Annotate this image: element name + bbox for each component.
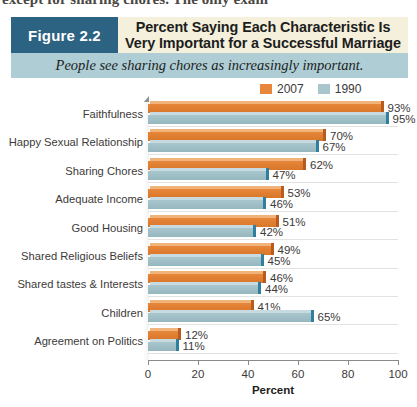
bar-value-label: 67% <box>323 141 346 153</box>
figure-subtitle-band: People see sharing chores as increasingl… <box>11 53 408 78</box>
bar-face <box>148 143 316 152</box>
bar-top-face <box>150 300 253 303</box>
bar-value-label: 65% <box>318 311 341 323</box>
bar-value-label: 44% <box>265 283 288 295</box>
chart-plot-area: FaithfulnessHappy Sexual RelationshipSha… <box>0 96 417 386</box>
bar-top-face <box>150 168 268 171</box>
x-axis-tick <box>198 360 199 365</box>
gridline <box>148 154 398 155</box>
gridline <box>148 324 398 325</box>
gridline <box>148 126 398 127</box>
x-axis-tick <box>298 360 299 365</box>
x-axis-tick-label: 20 <box>192 368 205 380</box>
figure-title-container: Percent Saying Each Characteristic Is Ve… <box>118 17 408 53</box>
category-label: Happy Sexual Relationship <box>3 136 143 148</box>
bar-top-face <box>150 101 383 104</box>
bar-top-face <box>150 282 260 285</box>
bar-face <box>148 171 266 180</box>
x-axis-tick <box>348 360 349 365</box>
bar-face <box>148 257 261 266</box>
x-axis-tick <box>398 360 399 365</box>
figure-number-box: Figure 2.2 <box>11 17 118 53</box>
bars-canvas: Percent 93%95%70%67%62%47%53%46%51%42%49… <box>143 96 417 366</box>
bar-end-cap <box>323 129 326 141</box>
bar-top-face <box>150 158 305 161</box>
figure-number-label: Figure 2.2 <box>28 27 101 44</box>
gridline <box>148 268 398 269</box>
x-axis-tick-label: 60 <box>292 368 305 380</box>
legend-swatch-icon <box>318 84 330 94</box>
bar-end-cap <box>263 271 266 283</box>
bar-end-cap <box>266 168 269 180</box>
bar-top-face <box>150 225 255 228</box>
bar-1990 <box>148 257 261 266</box>
x-axis-tick <box>148 360 149 365</box>
bar-value-label: 45% <box>268 255 291 267</box>
bar-top-face <box>150 186 283 189</box>
gridline <box>148 239 398 240</box>
bar-face <box>148 228 253 237</box>
chart-legend: 20071990 <box>260 82 408 96</box>
bar-face <box>148 200 263 209</box>
bar-1990 <box>148 342 176 351</box>
gridline <box>148 353 398 354</box>
x-axis-tick <box>248 360 249 365</box>
bar-end-cap <box>386 112 389 124</box>
bar-value-label: 51% <box>283 216 306 228</box>
bar-top-face <box>150 243 273 246</box>
category-label: Agreement on Politics <box>3 335 143 347</box>
page-title: Percent Saying Each Characteristic Is Ve… <box>122 19 404 52</box>
legend-swatch-icon <box>260 84 272 94</box>
bar-end-cap <box>253 225 256 237</box>
bar-value-label: 47% <box>273 169 296 181</box>
bar-end-cap <box>261 254 264 266</box>
bar-top-face <box>150 197 265 200</box>
x-axis-tick-label: 40 <box>242 368 255 380</box>
bar-end-cap <box>258 282 261 294</box>
bar-1990 <box>148 313 311 322</box>
bar-end-cap <box>311 310 314 322</box>
gridline <box>148 182 398 183</box>
category-label: Adequate Income <box>3 193 143 205</box>
bar-top-face <box>150 129 325 132</box>
x-axis-line <box>148 360 398 361</box>
bar-end-cap <box>303 158 306 170</box>
bar-top-face <box>150 112 388 115</box>
bar-top-face <box>150 339 178 342</box>
legend-1990: 1990 <box>318 82 362 96</box>
bar-end-cap <box>281 186 284 198</box>
x-axis-title: Percent <box>148 384 398 396</box>
gridline <box>148 296 398 297</box>
bar-top-face <box>150 328 180 331</box>
bar-top-face <box>150 310 313 313</box>
category-label: Good Housing <box>3 222 143 234</box>
category-axis-labels: FaithfulnessHappy Sexual RelationshipSha… <box>0 96 143 366</box>
legend-2007: 2007 <box>260 82 304 96</box>
bar-end-cap <box>176 339 179 351</box>
bar-value-label: 62% <box>310 159 333 171</box>
legend-label: 2007 <box>277 82 304 96</box>
bar-face <box>148 342 176 351</box>
bar-top-face <box>150 271 265 274</box>
bar-value-label: 95% <box>393 113 416 125</box>
category-label: Shared tastes & Interests <box>3 278 143 290</box>
bar-face <box>148 313 311 322</box>
bar-value-label: 11% <box>183 340 205 352</box>
legend-label: 1990 <box>335 82 362 96</box>
bar-top-face <box>150 215 278 218</box>
figure-subtitle: People see sharing chores as increasingl… <box>56 57 364 74</box>
gridline <box>148 211 398 212</box>
x-axis-tick-label: 80 <box>342 368 355 380</box>
bar-top-face <box>150 140 318 143</box>
category-label: Shared Religious Beliefs <box>3 250 143 262</box>
x-axis-tick-label: 100 <box>388 368 407 380</box>
bar-1990 <box>148 171 266 180</box>
cut-off-line: except for sharing chores. The only exam <box>2 0 268 8</box>
bar-1990 <box>148 285 258 294</box>
bar-end-cap <box>276 215 279 227</box>
category-label: Sharing Chores <box>3 165 143 177</box>
figure-header: Figure 2.2 Percent Saying Each Character… <box>11 17 408 53</box>
bar-face <box>148 285 258 294</box>
category-label: Children <box>3 307 143 319</box>
bar-1990 <box>148 228 253 237</box>
